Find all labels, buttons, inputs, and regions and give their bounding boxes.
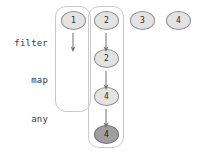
node-label: 2 xyxy=(104,16,109,25)
node-3: 3 xyxy=(130,11,155,30)
stage-label-any: any xyxy=(0,114,48,124)
arrow-col2-map-icon xyxy=(101,71,111,91)
node-label: 4 xyxy=(176,16,181,25)
node-2a: 2 xyxy=(94,11,119,30)
arrow-col2-filter-icon xyxy=(101,33,111,53)
node-label: 4 xyxy=(104,130,109,139)
arrow-col2-any-icon xyxy=(101,109,111,129)
stage-label-filter: filter xyxy=(0,38,48,48)
stage-label-map: map xyxy=(0,75,48,85)
node-4-standalone: 4 xyxy=(166,11,191,30)
node-label: 1 xyxy=(71,16,76,25)
node-label: 2 xyxy=(104,54,109,63)
node-label: 3 xyxy=(140,16,145,25)
diagram-canvas: filter map any 1 2 3 4 2 4 4 xyxy=(0,0,198,160)
node-label: 4 xyxy=(104,92,109,101)
node-1: 1 xyxy=(61,11,86,30)
arrow-col1-filter-icon xyxy=(68,33,78,53)
